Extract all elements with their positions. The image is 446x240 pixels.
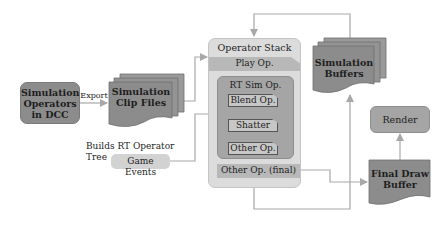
shatter-op-label: Shatter Op. — [229, 120, 277, 142]
blend-op-label: Blend Op. — [229, 95, 277, 106]
sim-operators-label-3: in DCC — [21, 109, 79, 120]
export-label: Export — [80, 90, 108, 101]
rt-sim-op-title: RT Sim Op. — [218, 80, 293, 91]
render-node: Render — [370, 106, 430, 133]
operator-stack: Operator Stack Play Op. RT Sim Op. Blend… — [208, 38, 301, 188]
clip-files-label-2: Clip Files — [109, 97, 173, 108]
sim-buffers-label-1: Simulation — [313, 57, 375, 68]
game-events-label: Game Events — [111, 156, 170, 178]
rt-sim-op-group: RT Sim Op. Blend Op. Shatter Op. Other O… — [217, 76, 294, 159]
final-draw-buffer-label-1: Final Draw — [369, 168, 431, 179]
final-draw-buffer-label-2: Buffer — [369, 179, 431, 190]
play-op-label: Play Op. — [209, 58, 300, 69]
operator-stack-title: Operator Stack — [209, 42, 300, 53]
shatter-op: Shatter Op. — [228, 119, 278, 132]
final-op-label: Other Op. (final) — [217, 165, 300, 176]
blend-op: Blend Op. — [228, 94, 278, 107]
clip-files-label-1: Simulation — [109, 86, 173, 97]
clipfiles-to-stack-wire — [183, 57, 207, 101]
final-op-band: Other Op. (final) — [217, 164, 300, 178]
game-events-node: Game Events — [111, 154, 170, 169]
other-op-label: Other Op. — [229, 143, 277, 154]
sim-operators-label-1: Simulation — [21, 87, 79, 98]
sim-operators-node: Simulation Operators in DCC — [20, 82, 80, 124]
render-label: Render — [371, 114, 429, 125]
sim-operators-label-2: Operators — [21, 98, 79, 109]
play-op-band: Play Op. — [209, 57, 300, 71]
sim-buffers-label-2: Buffers — [313, 68, 375, 79]
finalop-to-drawbuffer-wire — [300, 170, 367, 182]
other-op: Other Op. — [228, 142, 278, 155]
